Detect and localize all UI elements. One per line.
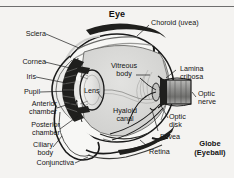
- label-posterior-chamber-line2: chamber: [2, 129, 60, 137]
- label-optic-disk: Optic disk: [169, 113, 186, 129]
- label-cornea: Cornea: [6, 58, 46, 66]
- label-conjunctiva: Conjunctiva: [4, 159, 74, 167]
- label-fovea: Fovea: [160, 133, 180, 141]
- label-optic-nerve: Optic nerve: [198, 90, 216, 106]
- label-optic-nerve-line2: nerve: [198, 98, 216, 106]
- label-posterior-chamber: Posterior chamber: [2, 121, 60, 137]
- globe-caption-line2: (Eyeball): [186, 148, 234, 157]
- label-hyaloid-canal: Hyaloid canal: [106, 107, 144, 123]
- label-ciliary-body-line2: body: [8, 149, 53, 157]
- label-optic-disk-line2: disk: [169, 121, 186, 129]
- label-vitreous-body: Vitreous body: [103, 62, 145, 78]
- label-retina: Retina: [149, 148, 170, 156]
- label-lamina-cribosa: Lamina cribosa: [180, 65, 204, 81]
- label-hyaloid-canal-line2: canal: [106, 115, 144, 123]
- globe-eyeball-caption: Globe (Eyeball): [186, 139, 234, 157]
- label-ciliary-body: Ciliary body: [8, 141, 53, 157]
- eye-anatomy-figure: Eye: [0, 0, 234, 178]
- globe-caption-line1: Globe: [186, 139, 234, 148]
- label-pupil: Pupil: [6, 88, 40, 96]
- label-lens: Lens: [84, 87, 100, 95]
- label-lamina-cribosa-line2: cribosa: [180, 73, 204, 81]
- label-sclera: Sclera: [6, 30, 46, 38]
- label-anterior-chamber-line2: chamber: [2, 108, 57, 116]
- label-choroid-uvea: Choroid (uvea): [151, 19, 199, 27]
- label-anterior-chamber: Anterior chamber: [2, 100, 57, 116]
- label-iris: Iris: [6, 73, 36, 81]
- label-vitreous-body-line2: body: [103, 70, 145, 78]
